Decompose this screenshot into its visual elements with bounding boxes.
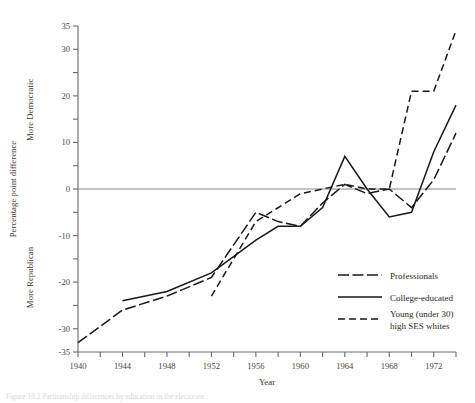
y-axis-label-more-democratic: More Democratic (25, 79, 35, 141)
y-tick-label: 30 (61, 44, 70, 54)
figure-caption: Figure 10.2 Partisanship differences by … (6, 392, 475, 401)
x-tick-label: 1952 (203, 361, 220, 371)
line-chart: -35-30-20-100102030351940194419481952195… (0, 0, 475, 403)
x-tick-label: 1960 (292, 361, 309, 371)
x-tick-label: 1948 (158, 361, 175, 371)
legend-label-1: Professionals (390, 271, 438, 281)
y-axis-title: Percentage point difference (8, 141, 18, 238)
legend-label-3: Young (under 30) (390, 309, 454, 319)
y-tick-label: -10 (59, 231, 70, 241)
x-tick-label: 1944 (114, 361, 132, 371)
y-tick-label: -30 (59, 324, 70, 334)
x-tick-label: 1968 (381, 361, 398, 371)
legend-label-2: College-educated (390, 293, 453, 303)
y-tick-label: 0 (66, 184, 70, 194)
x-tick-label: 1956 (247, 361, 265, 371)
y-tick-label: -35 (59, 347, 70, 357)
series-line-3 (211, 31, 456, 296)
x-tick-label: 1972 (425, 361, 442, 371)
y-tick-label: -20 (59, 277, 70, 287)
y-tick-label: 20 (61, 91, 70, 101)
chart-figure: -35-30-20-100102030351940194419481952195… (0, 0, 475, 403)
legend-label-3-line2: high SES whites (390, 321, 450, 331)
y-axis-label-more-republican: More Republican (25, 246, 35, 308)
y-tick-label: 35 (61, 21, 70, 31)
y-tick-label: 10 (61, 137, 70, 147)
x-tick-label: 1964 (336, 361, 354, 371)
x-axis-title: Year (259, 377, 275, 387)
x-tick-label: 1940 (69, 361, 86, 371)
